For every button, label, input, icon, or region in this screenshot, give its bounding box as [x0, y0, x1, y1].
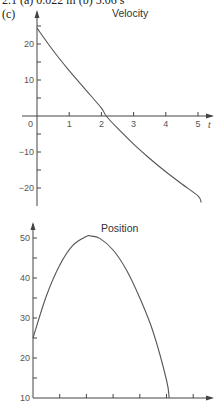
position-y-tick-label: 30: [20, 313, 30, 323]
position-y-tick-label: 20: [20, 353, 30, 363]
position-y-tick-label: 10: [20, 393, 30, 403]
position-title: Position: [101, 222, 139, 234]
position-y-tick-label: 50: [20, 233, 30, 243]
y-axis-arrow-icon: [31, 222, 36, 230]
position-y-tick-label: 40: [20, 273, 30, 283]
position-curve: [33, 235, 169, 398]
x-axis-arrow-icon: [206, 396, 214, 401]
position-chart: Position1020304050: [0, 0, 221, 404]
